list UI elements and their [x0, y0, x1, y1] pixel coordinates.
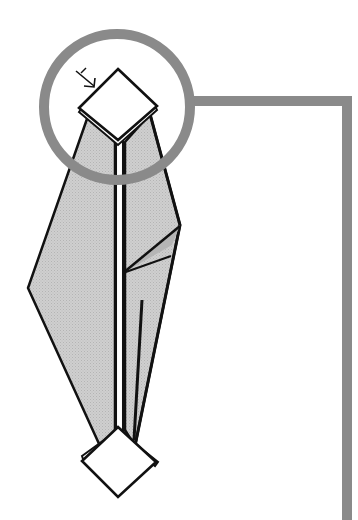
bottom-square-tip [82, 427, 158, 497]
origami-diagram [0, 0, 358, 520]
fold-direction-arrow [76, 68, 95, 87]
callout-connector-line [190, 101, 347, 520]
